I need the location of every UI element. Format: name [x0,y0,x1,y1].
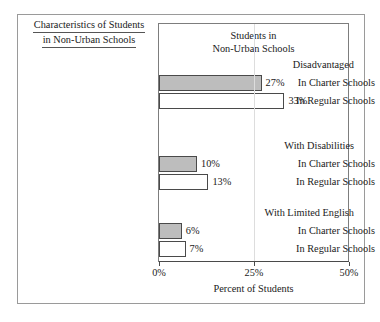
bar-value-1-1: 27% [266,77,285,88]
caption-line-2: in Non-Urban Schools [42,33,137,48]
x-tick-mark-1 [254,262,255,266]
group-label-3: With Limited English [228,207,380,218]
x-tick-label-1: 25% [245,267,264,278]
x-axis-title: Percent of Students [158,283,349,294]
series-label-3-1: In Charter Schools [228,225,380,236]
bar-value-3-2: 7% [190,243,204,254]
series-label-3-2: In Regular Schools [228,243,380,254]
gridline-25 [254,24,255,262]
bar-value-1-2: 33% [288,95,307,106]
group-label-1: Disadvantaged [228,59,380,70]
bar-value-2-1: 10% [201,158,220,169]
x-tick-label-0: 0% [152,267,166,278]
bar-3-2[interactable] [159,241,186,257]
x-tick-label-2: 50% [340,267,359,278]
x-tick-mark-0 [159,262,160,266]
series-label-2-1: In Charter Schools [228,158,380,169]
x-tick-mark-2 [349,262,350,266]
bar-2-1[interactable] [159,156,197,172]
bar-value-2-2: 13% [212,176,231,187]
bar-2-2[interactable] [159,174,208,190]
bar-1-1[interactable] [159,75,262,91]
group-label-2: With Disabilities [228,140,380,151]
bar-3-1[interactable] [159,223,182,239]
series-label-2-2: In Regular Schools [228,176,380,187]
bar-value-3-1: 6% [186,225,200,236]
figure-caption: Characteristics of Students in Non-Urban… [22,18,156,48]
caption-line-1: Characteristics of Students [33,18,145,33]
bar-1-2[interactable] [159,93,284,109]
